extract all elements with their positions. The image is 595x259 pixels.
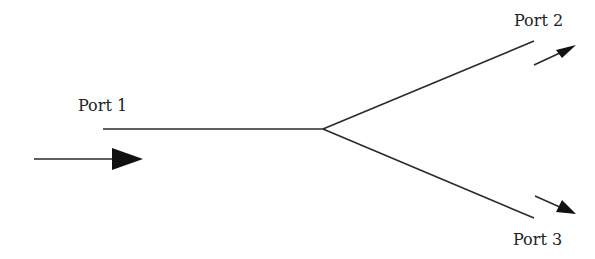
port3-label: Port 3 xyxy=(513,232,562,248)
port3-output-arrow-icon xyxy=(535,196,576,214)
port2-label: Port 2 xyxy=(514,13,563,29)
port3-branch xyxy=(323,129,534,218)
port2-output-arrow-icon xyxy=(534,45,576,65)
port2-branch xyxy=(323,41,534,129)
port1-label: Port 1 xyxy=(78,98,127,114)
y-junction-diagram xyxy=(0,0,595,259)
input-arrow-icon xyxy=(34,148,143,170)
